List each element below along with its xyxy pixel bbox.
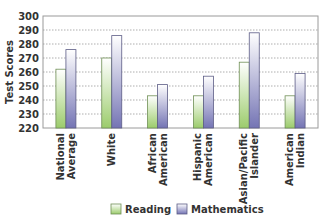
- bar-mathematics: [66, 50, 76, 128]
- bar-reading: [102, 58, 112, 128]
- y-axis-label: Test Scores: [4, 40, 15, 104]
- bar-mathematics: [249, 33, 259, 128]
- legend-swatch-reading: [111, 204, 121, 214]
- x-tick-label-line: Islander: [249, 133, 260, 179]
- x-tick-label-line: Indian: [295, 133, 306, 168]
- y-tick-label: 280: [18, 39, 39, 50]
- bar-mathematics: [112, 36, 122, 128]
- x-tick-label-line: Asian/Pacific: [238, 133, 249, 204]
- x-tick-label: AmericanIndian: [284, 133, 306, 186]
- x-tick-label: NationalAverage: [55, 133, 77, 181]
- y-tick-label: 270: [18, 53, 39, 64]
- y-tick-label: 230: [18, 109, 39, 120]
- bar-mathematics: [203, 76, 213, 128]
- y-tick-label: 220: [18, 123, 39, 134]
- bar-mathematics: [295, 73, 305, 128]
- y-tick-label: 250: [18, 81, 39, 92]
- x-tick-label: HispanicAmerican: [192, 133, 214, 186]
- x-tick-label: White: [106, 133, 117, 166]
- x-tick-label-line: American: [284, 133, 295, 186]
- legend-label-mathematics: Mathematics: [191, 204, 264, 215]
- bar-reading: [148, 96, 158, 128]
- y-tick-label: 240: [18, 95, 39, 106]
- y-tick-label: 290: [18, 25, 39, 36]
- x-tick-label-line: Average: [66, 133, 77, 180]
- legend-label-reading: Reading: [125, 204, 171, 215]
- x-tick-label: AfricanAmerican: [147, 133, 169, 186]
- x-tick-label-line: American: [158, 133, 169, 186]
- legend-swatch-mathematics: [177, 204, 187, 214]
- y-tick-label: 300: [18, 11, 39, 22]
- bar-reading: [56, 69, 66, 128]
- bar-chart: 220230240250260270280290300 NationalAver…: [0, 0, 326, 224]
- bar-reading: [239, 62, 249, 128]
- y-tick-label: 260: [18, 67, 39, 78]
- plot-area: [43, 16, 318, 128]
- bar-mathematics: [158, 85, 168, 128]
- bar-reading: [193, 96, 203, 128]
- bar-reading: [285, 96, 295, 128]
- x-tick-label-line: White: [106, 133, 117, 166]
- x-tick-label-line: African: [147, 133, 158, 173]
- x-tick-label-line: Hispanic: [192, 133, 203, 181]
- x-tick-label: Asian/PacificIslander: [238, 133, 260, 204]
- x-tick-label-line: American: [203, 133, 214, 186]
- x-tick-label-line: National: [55, 133, 66, 181]
